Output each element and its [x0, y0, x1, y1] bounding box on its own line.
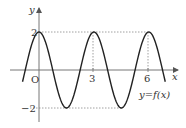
origin-label: O	[31, 74, 39, 85]
y-tick-label-2: 2	[31, 27, 37, 38]
y-tick-label-neg2: −2	[21, 103, 36, 114]
function-graph: y x O 2 −2 3 6 y=f(x)	[0, 0, 186, 128]
x-axis-label: x	[172, 71, 178, 82]
y-axis-label: y	[28, 4, 35, 15]
function-label: y=f(x)	[138, 89, 170, 100]
x-tick-label-3: 3	[89, 73, 95, 84]
x-tick-label-6: 6	[144, 73, 150, 84]
